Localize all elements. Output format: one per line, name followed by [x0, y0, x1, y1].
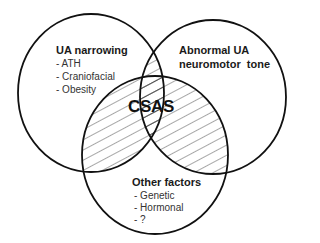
neuromotor-title-line-2: neuromotor tone: [179, 58, 270, 71]
ua-narrowing-item-obesity: - Obesity: [56, 84, 96, 96]
other-factors-item-hormonal: - Hormonal: [134, 202, 183, 214]
ua-narrowing-item-craniofacial: - Craniofacial: [56, 71, 115, 83]
ua-narrowing-item-ath: - ATH: [56, 58, 81, 70]
other-factors-item-unknown: - ?: [134, 214, 146, 226]
center-label-csas: CSAS: [128, 97, 174, 117]
neuromotor-title-line-1: Abnormal UA: [179, 44, 249, 57]
other-factors-title: Other factors: [132, 176, 201, 189]
other-factors-item-genetic: - Genetic: [134, 190, 175, 202]
ua-narrowing-title: UA narrowing: [56, 44, 128, 57]
